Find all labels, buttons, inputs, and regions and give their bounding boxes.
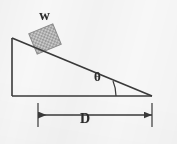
- label-weight: W: [39, 11, 50, 22]
- figure-canvas: W θ D: [0, 0, 177, 144]
- label-angle-theta: θ: [94, 70, 101, 83]
- label-distance-d: D: [80, 112, 91, 126]
